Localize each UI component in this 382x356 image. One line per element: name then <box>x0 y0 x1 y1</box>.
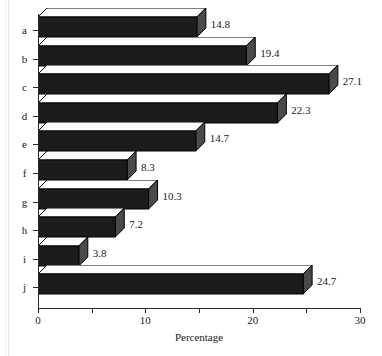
x-axis-tick <box>306 308 307 313</box>
x-axis-tick <box>199 308 200 313</box>
bar-f <box>38 151 138 182</box>
bar-3d-faces <box>38 265 314 296</box>
bar-value-label: 14.8 <box>211 18 230 30</box>
x-axis-tick-label: 20 <box>247 314 258 326</box>
y-axis-line <box>38 14 39 308</box>
bar-3d-faces <box>38 151 138 182</box>
category-label-d: d <box>18 110 31 122</box>
x-axis-tick-label: 0 <box>35 314 41 326</box>
bar-3d-faces <box>38 37 257 68</box>
bar-value-label: 8.3 <box>141 161 155 173</box>
category-label-b: b <box>18 53 31 65</box>
category-label-j: j <box>18 281 31 293</box>
category-label-h: h <box>18 224 31 236</box>
y-axis-tick <box>33 173 38 174</box>
x-axis-tick-label: 10 <box>140 314 151 326</box>
bar-3d-faces <box>38 122 207 153</box>
y-axis-tick <box>33 87 38 88</box>
category-label-g: g <box>18 196 31 208</box>
x-axis-tick <box>360 308 361 313</box>
category-label-e: e <box>18 138 31 150</box>
bar-value-label: 19.4 <box>260 47 279 59</box>
bar-d <box>38 94 288 125</box>
bar-value-label: 14.7 <box>210 132 229 144</box>
bar-value-label: 10.3 <box>163 190 182 202</box>
bar-3d-faces <box>38 65 340 96</box>
bar-3d-faces <box>38 180 160 211</box>
bar-3d-faces <box>38 94 288 125</box>
category-label-f: f <box>18 167 31 179</box>
bar-b <box>38 37 257 68</box>
y-axis-tick <box>33 30 38 31</box>
bar-c <box>38 65 340 96</box>
x-axis-tick <box>145 308 146 313</box>
category-label-c: c <box>18 81 31 93</box>
x-axis-tick <box>38 308 39 313</box>
bar-e <box>38 122 207 153</box>
bar-value-label: 3.8 <box>93 247 107 259</box>
category-label-i: i <box>18 253 31 265</box>
bar-value-label: 27.1 <box>343 75 362 87</box>
bar-h <box>38 208 126 239</box>
bar-value-label: 24.7 <box>317 275 336 287</box>
bar-value-label: 22.3 <box>291 104 310 116</box>
y-axis-tick <box>33 144 38 145</box>
y-axis-tick <box>33 230 38 231</box>
bar-value-label: 7.2 <box>129 218 143 230</box>
category-label-a: a <box>18 24 31 36</box>
chart-page: 0102030 Percentage 14.8a19.4b27.1c22.3d1… <box>0 0 382 356</box>
y-axis-tick <box>33 259 38 260</box>
x-axis-tick-label: 30 <box>355 314 366 326</box>
y-axis-tick <box>33 59 38 60</box>
bar-j <box>38 265 314 296</box>
y-axis-tick <box>33 287 38 288</box>
x-axis-title: Percentage <box>38 331 360 343</box>
y-axis-tick <box>33 202 38 203</box>
bar-3d-faces <box>38 208 126 239</box>
bar-3d-faces <box>38 8 208 39</box>
bar-a <box>38 8 208 39</box>
bar-chart-plot-area: 0102030 Percentage 14.8a19.4b27.1c22.3d1… <box>0 0 382 356</box>
x-axis-tick <box>253 308 254 313</box>
bar-i <box>38 237 90 268</box>
bar-3d-faces <box>38 237 90 268</box>
x-axis-tick <box>92 308 93 313</box>
y-axis-tick <box>33 116 38 117</box>
bar-g <box>38 180 160 211</box>
